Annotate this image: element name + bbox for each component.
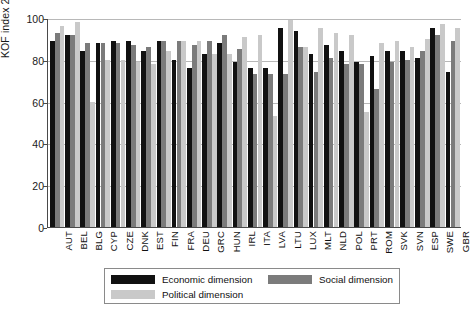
bar-mlt-pol bbox=[318, 28, 323, 227]
x-label-cell-prt: PRT bbox=[354, 230, 369, 266]
x-label-cell-cyp: CYP bbox=[95, 230, 110, 266]
bar-svn-pol bbox=[410, 47, 415, 227]
bar-group-fin bbox=[157, 19, 172, 227]
x-label-cell-fra: FRA bbox=[171, 230, 186, 266]
legend-entry-social: Social dimension bbox=[268, 274, 393, 285]
bar-group-ita bbox=[248, 19, 263, 227]
bar-lux-pol bbox=[303, 47, 308, 227]
bar-group-pol bbox=[339, 19, 354, 227]
bar-esp-pol bbox=[425, 39, 430, 227]
x-label-cell-mlt: MLT bbox=[309, 230, 324, 266]
bar-group-lva bbox=[263, 19, 278, 227]
bar-svk-pol bbox=[395, 41, 400, 227]
bar-ita-pol bbox=[258, 35, 263, 227]
x-label-cell-dnk: DNK bbox=[125, 230, 140, 266]
bar-group-hun bbox=[217, 19, 232, 227]
bar-group-nld bbox=[324, 19, 339, 227]
x-label-cell-bel: BEL bbox=[64, 230, 79, 266]
y-tick-label-60: 60 bbox=[0, 97, 44, 109]
x-label-cell-nld: NLD bbox=[324, 230, 339, 266]
x-label-cell-ltu: LTU bbox=[278, 230, 293, 266]
bar-pol-pol bbox=[349, 35, 354, 227]
x-label-cell-cze: CZE bbox=[110, 230, 125, 266]
bar-est-pol bbox=[151, 64, 156, 227]
bar-group-prt bbox=[354, 19, 369, 227]
bar-grc-pol bbox=[212, 54, 217, 227]
x-axis-labels: AUTBELBLGCYPCZEDNKESTFINFRADEUGRCHUNIRLI… bbox=[47, 230, 461, 266]
x-label-cell-est: EST bbox=[141, 230, 156, 266]
bar-dnk-pol bbox=[136, 62, 141, 227]
bar-bel-pol bbox=[75, 22, 80, 227]
bar-gbr-pol bbox=[455, 28, 460, 227]
bar-group-aut bbox=[50, 19, 65, 227]
x-label-cell-lux: LUX bbox=[293, 230, 308, 266]
bar-blg-pol bbox=[90, 102, 95, 227]
bar-hun-pol bbox=[227, 54, 232, 227]
y-tick-label-0: 0 bbox=[0, 222, 44, 234]
y-tick-label-100: 100 bbox=[0, 13, 44, 25]
legend-row-1: Economic dimension Social dimension bbox=[111, 273, 393, 286]
x-label-cell-grc: GRC bbox=[202, 230, 217, 266]
bar-group-ltu bbox=[278, 19, 293, 227]
x-label-cell-svn: SVN bbox=[400, 230, 415, 266]
y-tick-label-40: 40 bbox=[0, 138, 44, 150]
bar-group-grc bbox=[202, 19, 217, 227]
x-label-cell-rom: ROM bbox=[370, 230, 385, 266]
bar-group-cyp bbox=[96, 19, 111, 227]
bar-group-cze bbox=[111, 19, 126, 227]
x-label-cell-blg: BLG bbox=[80, 230, 95, 266]
legend-row-2: Political dimension bbox=[111, 288, 393, 301]
bar-group-swe bbox=[430, 19, 445, 227]
bar-prt-pol bbox=[364, 112, 369, 227]
bar-group-deu bbox=[187, 19, 202, 227]
bar-group-bel bbox=[65, 19, 80, 227]
bar-group-esp bbox=[415, 19, 430, 227]
x-label-cell-gbr: GBR bbox=[446, 230, 461, 266]
bar-ltu-pol bbox=[288, 20, 293, 227]
legend-label-social: Social dimension bbox=[319, 274, 393, 285]
bar-nld-pol bbox=[334, 33, 339, 227]
bar-group-lux bbox=[294, 19, 309, 227]
x-label-cell-hun: HUN bbox=[217, 230, 232, 266]
bar-group-fra bbox=[172, 19, 187, 227]
legend-swatch-social-icon bbox=[268, 275, 312, 284]
x-label-cell-swe: SWE bbox=[431, 230, 446, 266]
legend-label-economic: Economic dimension bbox=[162, 274, 252, 285]
bar-deu-pol bbox=[197, 41, 202, 227]
bar-group-est bbox=[141, 19, 156, 227]
legend-entry-economic: Economic dimension bbox=[111, 274, 268, 285]
legend-swatch-political-icon bbox=[111, 290, 155, 299]
y-axis-title: KOF index 2007 bbox=[0, 0, 11, 58]
bar-group-dnk bbox=[126, 19, 141, 227]
x-label-cell-pol: POL bbox=[339, 230, 354, 266]
bar-group-irl bbox=[233, 19, 248, 227]
legend-swatch-economic-icon bbox=[111, 275, 155, 284]
bar-group-blg bbox=[80, 19, 95, 227]
bar-cyp-pol bbox=[105, 60, 110, 227]
x-tick-label-gbr: GBR bbox=[459, 231, 470, 252]
bar-group-svn bbox=[400, 19, 415, 227]
bar-group-mlt bbox=[309, 19, 324, 227]
x-label-cell-ita: ITA bbox=[247, 230, 262, 266]
bar-group-gbr bbox=[446, 19, 461, 227]
x-label-cell-irl: IRL bbox=[232, 230, 247, 266]
bar-swe-pol bbox=[440, 24, 445, 227]
chart-legend: Economic dimension Social dimension Poli… bbox=[104, 268, 400, 304]
bar-aut-pol bbox=[60, 26, 65, 227]
bar-fra-pol bbox=[181, 41, 186, 227]
bar-group-svk bbox=[385, 19, 400, 227]
bar-group-rom bbox=[370, 19, 385, 227]
x-label-cell-esp: ESP bbox=[415, 230, 430, 266]
bar-groups bbox=[48, 19, 461, 227]
bar-cze-pol bbox=[121, 60, 126, 227]
x-label-cell-lva: LVA bbox=[263, 230, 278, 266]
bar-irl-pol bbox=[242, 37, 247, 227]
kof-index-bar-chart: KOF index 2007 020406080100 AUTBELBLGCYP… bbox=[0, 0, 470, 316]
bar-lva-pol bbox=[273, 116, 278, 227]
plot-area bbox=[47, 19, 461, 228]
x-label-cell-aut: AUT bbox=[49, 230, 64, 266]
y-tick-label-80: 80 bbox=[0, 55, 44, 67]
legend-label-political: Political dimension bbox=[162, 289, 243, 300]
y-tick-label-20: 20 bbox=[0, 180, 44, 192]
y-tick-mark-0 bbox=[43, 228, 47, 229]
